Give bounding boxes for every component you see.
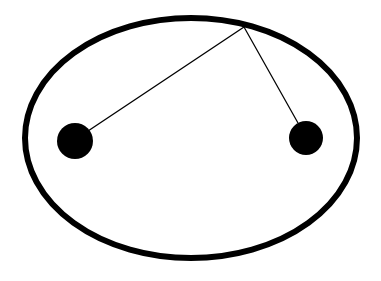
left-focus-dot: [57, 123, 93, 159]
ellipse-foci-diagram: [0, 0, 381, 281]
right-focus-dot: [289, 121, 323, 155]
line-to-left-focus: [88, 27, 244, 131]
